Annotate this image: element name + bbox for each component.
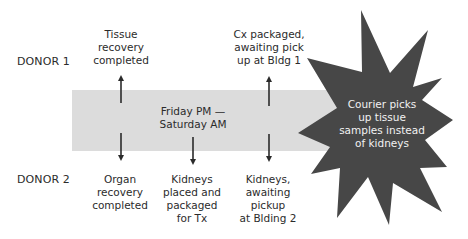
time-band-label: Friday PM — Saturday AM <box>143 105 243 131</box>
event-text-line: up at Bldg 1 <box>224 54 314 67</box>
event-text-line: pickup <box>223 199 313 212</box>
incident-text-line: samples instead <box>327 124 437 137</box>
event-text-line: completed <box>76 54 166 67</box>
band-text-line: Friday PM — <box>143 105 243 118</box>
event-text-line: recovery <box>76 41 166 54</box>
incident-text-line: of kidneys <box>327 137 437 150</box>
event-kidneys-awaiting-pickup: Kidneys, awaiting pickup at Blding 2 <box>223 173 313 225</box>
event-tissue-recovery-completed: Tissue recovery completed <box>76 28 166 67</box>
event-text-line: awaiting pick <box>224 41 314 54</box>
event-text-line: Kidneys, <box>223 173 313 186</box>
donor-1-label: DONOR 1 <box>17 55 70 68</box>
incident-callout-text: Courier picks up tissue samples instead … <box>327 98 437 150</box>
event-text-line: Cx packaged, <box>224 28 314 41</box>
event-text-line: Tissue <box>76 28 166 41</box>
incident-text-line: Courier picks <box>327 98 437 111</box>
event-text-line: at Blding 2 <box>223 212 313 225</box>
band-text-line: Saturday AM <box>143 118 243 131</box>
donor-2-label: DONOR 2 <box>17 173 70 186</box>
event-cx-packaged-awaiting-pickup: Cx packaged, awaiting pick up at Bldg 1 <box>224 28 314 67</box>
event-text-line: awaiting <box>223 186 313 199</box>
incident-text-line: up tissue <box>327 111 437 124</box>
incident-timeline-diagram: DONOR 1 DONOR 2 Tissue recovery complete… <box>0 0 468 239</box>
